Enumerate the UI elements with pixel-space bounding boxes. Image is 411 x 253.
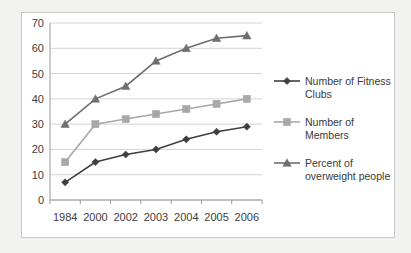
y-axis-tick-label: 20 — [32, 143, 44, 155]
marker-square — [283, 118, 290, 125]
marker-diamond — [122, 151, 129, 158]
y-axis-tick-label: 0 — [38, 194, 44, 206]
legend-label: Number of Fitness — [305, 75, 391, 87]
chart-frame: 706050403020100 198420002002200320042005… — [21, 12, 395, 238]
marker-square — [243, 95, 250, 102]
y-axis-tick-label: 60 — [32, 42, 44, 54]
x-axis-tick-labels: 1984200020022003200420052006 — [53, 211, 259, 223]
y-axis-tick-labels: 706050403020100 — [32, 17, 44, 206]
legend-label: Members — [305, 129, 349, 141]
legend-label: Clubs — [305, 88, 332, 100]
marker-square — [183, 105, 190, 112]
marker-diamond — [213, 128, 220, 135]
x-axis-tick-label: 2003 — [144, 211, 168, 223]
line-chart: 706050403020100 198420002002200320042005… — [22, 13, 394, 237]
x-axis-tick-label: 2000 — [83, 211, 107, 223]
series-line — [65, 127, 247, 183]
x-axis-tick-label: 2002 — [113, 211, 137, 223]
x-axis-tick-label: 2004 — [174, 211, 198, 223]
x-axis-tick-label: 1984 — [53, 211, 77, 223]
marker-square — [152, 110, 159, 117]
marker-square — [92, 121, 99, 128]
y-axis-tick-label: 50 — [32, 68, 44, 80]
marker-diamond — [152, 146, 159, 153]
chart-plot-area: 706050403020100 198420002002200320042005… — [22, 13, 394, 237]
series-markers-group — [61, 31, 251, 185]
marker-square — [213, 100, 220, 107]
chart-legend: Number of FitnessClubsNumber ofMembersPe… — [274, 75, 391, 182]
marker-square — [62, 158, 69, 165]
y-axis-tick-label: 30 — [32, 118, 44, 130]
x-axis-ticks — [50, 200, 262, 204]
y-axis-tick-label: 70 — [32, 17, 44, 29]
x-axis-tick-label: 2006 — [235, 211, 259, 223]
legend-label: Number of — [305, 116, 354, 128]
legend-label: Percent of — [305, 157, 353, 169]
marker-diamond — [183, 136, 190, 143]
y-axis-tick-label: 10 — [32, 169, 44, 181]
screenshot-root: 706050403020100 198420002002200320042005… — [0, 0, 411, 253]
legend-label: overweight people — [305, 170, 390, 182]
marker-square — [122, 115, 129, 122]
x-axis-tick-label: 2005 — [204, 211, 228, 223]
y-axis-tick-label: 40 — [32, 93, 44, 105]
marker-diamond — [283, 77, 290, 84]
